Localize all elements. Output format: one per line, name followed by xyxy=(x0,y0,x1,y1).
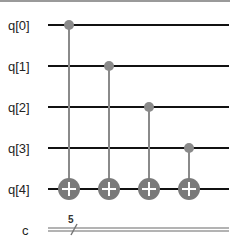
bus-slash-icon xyxy=(71,224,77,235)
qubit-label-4: q[4] xyxy=(8,182,30,197)
qubit-label-1: q[1] xyxy=(8,59,30,74)
qubit-label-3: q[3] xyxy=(8,141,30,156)
circuit-diagram: q[0] q[1] q[2] q[3] q[4] c 5 xyxy=(0,0,241,247)
cnot-gate-3[interactable] xyxy=(178,143,200,200)
classical-width: 5 xyxy=(68,214,74,225)
classical-label: c xyxy=(22,223,29,238)
control-dot-icon xyxy=(104,61,114,71)
control-dot-icon xyxy=(64,20,74,30)
cnot-gate-1[interactable] xyxy=(98,61,120,200)
control-dot-icon xyxy=(184,143,194,153)
cnot-gate-2[interactable] xyxy=(138,102,160,200)
qubit-label-2: q[2] xyxy=(8,100,30,115)
qubit-label-0: q[0] xyxy=(8,18,30,33)
cnot-gate-0[interactable] xyxy=(58,20,80,200)
control-dot-icon xyxy=(144,102,154,112)
